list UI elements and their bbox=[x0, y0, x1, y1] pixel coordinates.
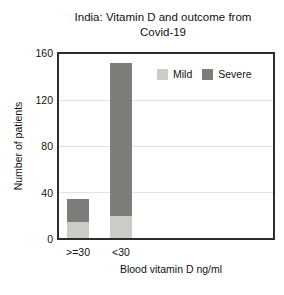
plot-area: MildSevere bbox=[57, 52, 275, 240]
mild-swatch-icon bbox=[157, 69, 168, 80]
x-tick-label: >=30 bbox=[66, 246, 90, 258]
gridline bbox=[59, 146, 273, 147]
chart-figure: India: Vitamin D and outcome from Covid-… bbox=[0, 0, 284, 295]
legend-label: Severe bbox=[218, 68, 251, 80]
y-tick-label: 80 bbox=[19, 140, 53, 152]
chart-title-line1: India: Vitamin D and outcome from bbox=[42, 10, 284, 25]
legend-item-mild: Mild bbox=[157, 68, 192, 80]
bar-segment-severe-0 bbox=[67, 199, 89, 222]
legend: MildSevere bbox=[157, 68, 262, 80]
x-tick-label: <30 bbox=[112, 246, 130, 258]
y-tick-label: 40 bbox=[19, 187, 53, 199]
bar-segment-mild-1 bbox=[110, 216, 132, 238]
y-tick-label: 160 bbox=[19, 47, 53, 59]
legend-item-severe: Severe bbox=[202, 68, 251, 80]
bar-segment-mild-0 bbox=[67, 222, 89, 238]
y-tick-label: 120 bbox=[19, 94, 53, 106]
gridline bbox=[59, 192, 273, 193]
gridline bbox=[59, 100, 273, 101]
bar-segment-severe-1 bbox=[110, 63, 132, 216]
y-tick-label: 0 bbox=[19, 233, 53, 245]
severe-swatch-icon bbox=[202, 69, 213, 80]
chart-title: India: Vitamin D and outcome from Covid-… bbox=[42, 10, 284, 40]
legend-label: Mild bbox=[173, 68, 192, 80]
chart-title-line2: Covid-19 bbox=[42, 25, 284, 40]
x-axis-title: Blood vitamin D ng/ml bbox=[62, 263, 280, 275]
